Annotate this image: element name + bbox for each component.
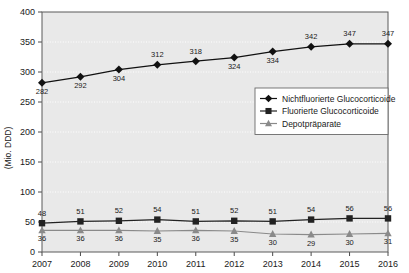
data-point-label: 56 [345, 204, 353, 213]
marker-square [116, 218, 122, 224]
data-point-label: 36 [76, 234, 84, 243]
y-axis-tick-label: 150 [20, 157, 35, 167]
line-chart: 050100150200250300350400 200720082009201… [0, 0, 409, 273]
y-axis-tick-label: 0 [30, 247, 35, 257]
x-axis-tick-label: 2010 [147, 259, 167, 269]
y-axis-tick-label: 350 [20, 37, 35, 47]
data-point-label: 48 [38, 209, 46, 218]
data-point-label: 54 [153, 205, 161, 214]
data-point-label: 51 [76, 207, 84, 216]
marker-square [308, 216, 314, 222]
data-point-label: 36 [115, 234, 123, 243]
y-axis-tick-label: 400 [20, 7, 35, 17]
data-point-label: 29 [307, 239, 315, 248]
x-axis-tick-label: 2007 [32, 259, 52, 269]
x-axis-tick-label: 2015 [340, 259, 360, 269]
marker-square [265, 108, 271, 114]
legend-item-label: Depotpräparate [282, 119, 341, 129]
x-axis-tick-label: 2012 [224, 259, 244, 269]
marker-square [231, 218, 237, 224]
data-point-label: 347 [343, 29, 356, 38]
y-axis-tick-label: 200 [20, 127, 35, 137]
data-point-label: 312 [151, 50, 164, 59]
x-axis-tick-label: 2008 [70, 259, 90, 269]
data-point-label: 52 [115, 206, 123, 215]
marker-square [346, 215, 352, 221]
y-axis-tick-label: 100 [20, 187, 35, 197]
data-point-label: 334 [266, 56, 279, 65]
x-axis-tick-label: 2009 [109, 259, 129, 269]
data-point-label: 35 [230, 235, 238, 244]
x-axis-ticks-group: 2007200820092010201120122013201420152016 [32, 252, 398, 269]
marker-square [193, 218, 199, 224]
data-point-label: 52 [230, 206, 238, 215]
x-axis-tick-label: 2013 [263, 259, 283, 269]
marker-square [269, 218, 275, 224]
marker-square [39, 220, 45, 226]
data-point-label: 318 [190, 47, 203, 56]
y-axis-tick-label: 50 [25, 217, 35, 227]
data-point-label: 347 [382, 29, 395, 38]
data-point-label: 36 [192, 234, 200, 243]
marker-square [77, 218, 83, 224]
x-axis-tick-label: 2011 [186, 259, 205, 269]
data-point-label: 51 [268, 207, 276, 216]
data-point-label: 54 [307, 205, 315, 214]
legend-item-label: Fluorierte Glucocorticoide [282, 106, 379, 116]
legend: Nichtfluorierte GlucocorticoideFluoriert… [255, 88, 396, 135]
data-point-label: 324 [228, 62, 241, 71]
x-axis-tick-label: 2016 [378, 259, 398, 269]
data-point-label: 292 [74, 81, 87, 90]
y-axis-tick-label: 250 [20, 97, 35, 107]
marker-square [154, 216, 160, 222]
y-axis-title: (Mio. DDD) [3, 127, 13, 170]
data-point-label: 30 [345, 238, 353, 247]
data-point-label: 304 [113, 74, 126, 83]
x-axis-tick-label: 2014 [301, 259, 321, 269]
data-point-label: 35 [153, 235, 161, 244]
data-point-label: 282 [36, 87, 49, 96]
data-point-label: 51 [192, 207, 200, 216]
data-point-label: 342 [305, 32, 318, 41]
y-axis-tick-label: 300 [20, 67, 35, 77]
marker-square [385, 215, 391, 221]
data-point-label: 31 [384, 237, 392, 246]
data-point-label: 30 [268, 238, 276, 247]
y-axis-ticks-group: 050100150200250300350400 [20, 7, 42, 257]
data-point-label: 36 [38, 234, 46, 243]
chart-container: 050100150200250300350400 200720082009201… [0, 0, 409, 273]
legend-item-label: Nichtfluorierte Glucocorticoide [282, 94, 396, 104]
data-point-label: 56 [384, 204, 392, 213]
